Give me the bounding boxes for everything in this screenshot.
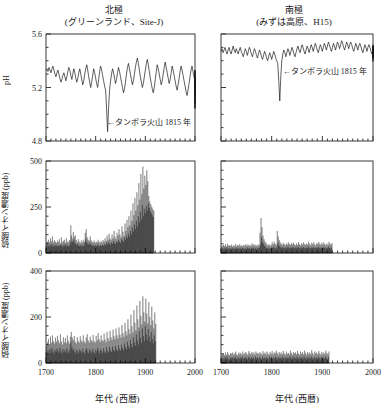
panel-sulfate-arctic: 0250500 — [0, 155, 207, 265]
column-title-antarctic-main: 南極 — [205, 4, 383, 16]
svg-text:500: 500 — [30, 157, 42, 166]
svg-text:1800: 1800 — [264, 368, 280, 377]
svg-text:2000: 2000 — [365, 368, 381, 377]
figure-root: 北極 (グリーンランド、Site-J) 南極 (みずは高原、H15) pH 硫酸… — [0, 0, 387, 413]
svg-text:1800: 1800 — [88, 368, 104, 377]
svg-text:2000: 2000 — [187, 368, 203, 377]
svg-text:5.6: 5.6 — [32, 30, 42, 39]
svg-text:0: 0 — [38, 249, 42, 258]
column-title-antarctic-sub: (みずは高原、H15) — [205, 16, 383, 28]
panel-sulfate-antarctic — [207, 155, 387, 265]
x-axis-title-antarctic-text: 年代 (西暦) — [275, 394, 319, 404]
svg-text:1900: 1900 — [137, 368, 153, 377]
svg-text:0: 0 — [38, 359, 42, 368]
x-axis-title-arctic: 年代 (西暦) — [30, 394, 205, 404]
svg-text:1700: 1700 — [38, 368, 54, 377]
svg-text:←タンボラ火山 1815 年: ←タンボラ火山 1815 年 — [107, 117, 191, 127]
panel-nitrate-arctic: 02004001700180019002000 — [0, 265, 207, 393]
panel-ph-antarctic: ←タンボラ火山 1815 年 — [207, 28, 387, 155]
svg-text:←タンボラ火山 1815 年: ←タンボラ火山 1815 年 — [283, 66, 367, 76]
svg-text:5.2: 5.2 — [32, 84, 42, 93]
panel-ph-arctic: 4.85.25.6←タンボラ火山 1815 年 — [0, 28, 207, 155]
panel-nitrate-antarctic: 1700180019002000 — [207, 265, 387, 393]
column-title-arctic-main: 北極 — [18, 4, 210, 16]
svg-text:4.8: 4.8 — [32, 137, 42, 146]
x-axis-title-arctic-text: 年代 (西暦) — [95, 394, 139, 404]
svg-text:1700: 1700 — [213, 368, 229, 377]
svg-text:400: 400 — [30, 267, 42, 276]
svg-text:250: 250 — [30, 203, 42, 212]
svg-text:200: 200 — [30, 313, 42, 322]
column-title-antarctic: 南極 (みずは高原、H15) — [205, 4, 383, 28]
column-title-arctic-sub: (グリーンランド、Site-J) — [18, 16, 210, 28]
svg-text:1900: 1900 — [314, 368, 330, 377]
column-title-arctic: 北極 (グリーンランド、Site-J) — [18, 4, 210, 28]
x-axis-title-antarctic: 年代 (西暦) — [212, 394, 382, 404]
